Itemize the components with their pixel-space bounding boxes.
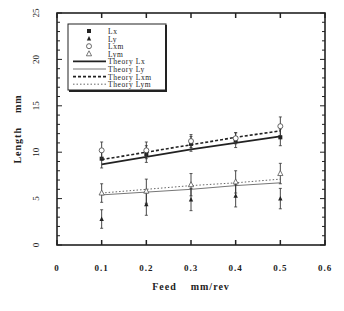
- marker-filled-triangle: [233, 193, 237, 198]
- x-axis-label: Feed mm/rev: [152, 281, 230, 292]
- marker-open-circle: [189, 139, 194, 144]
- legend: LxLyLxmLymTheory LxTheory LyTheory LxmTh…: [68, 24, 167, 91]
- marker-filled-triangle: [99, 217, 103, 222]
- marker-open-circle: [233, 136, 238, 141]
- x-tick-label: 0.6: [318, 263, 332, 273]
- plot-area: [99, 117, 283, 228]
- x-tick-label: 0.5: [273, 263, 287, 273]
- marker-filled-triangle: [189, 197, 193, 202]
- marker-open-triangle: [233, 179, 238, 184]
- marker-open-circle: [278, 124, 283, 129]
- x-tick-label: 0.4: [229, 263, 243, 273]
- y-axis-label: Length mm: [12, 94, 23, 163]
- marker-filled-triangle: [278, 196, 282, 201]
- x-tick-label: 0.2: [139, 263, 153, 273]
- y-tick-label: 25: [31, 8, 41, 18]
- marker-open-triangle: [278, 171, 283, 176]
- legend-label: Theory Lym: [108, 80, 151, 89]
- marker-open-circle: [144, 148, 149, 153]
- y-tick-label: 15: [31, 101, 41, 111]
- marker-open-circle: [99, 148, 104, 153]
- marker-open-circle: [87, 44, 92, 49]
- marker-open-triangle: [188, 182, 193, 187]
- x-tick-label: 0.1: [95, 263, 109, 273]
- y-tick-label: 5: [31, 196, 41, 201]
- chart: 051015202500.10.20.30.40.50.6 LxLyLxmLym…: [0, 0, 344, 311]
- marker-filled-square: [87, 29, 91, 33]
- x-tick-label: 0: [54, 263, 60, 273]
- marker-open-triangle: [99, 190, 104, 195]
- marker-filled-square: [278, 135, 282, 139]
- y-tick-label: 20: [31, 54, 41, 64]
- x-tick-label: 0.3: [184, 263, 198, 273]
- y-tick-label: 0: [31, 242, 41, 247]
- y-tick-label: 10: [31, 147, 41, 157]
